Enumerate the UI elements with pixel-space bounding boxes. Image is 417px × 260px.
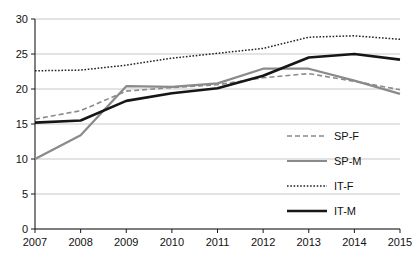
legend-label-sp-f: SP-F — [334, 130, 359, 142]
x-axis-tick-label: 2007 — [23, 236, 47, 248]
x-axis-tick-label: 2008 — [68, 236, 92, 248]
x-axis-tick-label: 2013 — [297, 236, 321, 248]
legend-label-it-f: IT-F — [334, 180, 354, 192]
x-axis-tick-label: 2014 — [342, 236, 366, 248]
chart-canvas: 051015202530 200720082009201020112012201… — [0, 0, 417, 260]
y-axis: 051015202530 — [16, 13, 35, 235]
series-line-sp-f — [35, 74, 400, 120]
legend-label-sp-m: SP-M — [334, 155, 362, 167]
line-chart: 051015202530 200720082009201020112012201… — [0, 0, 417, 260]
y-axis-tick-label: 5 — [22, 188, 28, 200]
x-axis-tick-label: 2015 — [388, 236, 412, 248]
series-line-sp-m — [35, 69, 400, 159]
y-axis-tick-label: 20 — [16, 83, 28, 95]
y-axis-tick-label: 25 — [16, 48, 28, 60]
legend-label-it-m: IT-M — [334, 205, 356, 217]
series-line-it-f — [35, 36, 400, 71]
x-axis-tick-label: 2009 — [114, 236, 138, 248]
series-line-it-m — [35, 54, 400, 123]
y-axis-tick-label: 10 — [16, 153, 28, 165]
x-axis-tick-label: 2010 — [160, 236, 184, 248]
chart-legend: SP-FSP-MIT-FIT-M — [287, 130, 362, 217]
x-axis-tick-label: 2012 — [251, 236, 275, 248]
x-axis: 200720082009201020112012201320142015 — [23, 229, 412, 248]
y-axis-tick-label: 15 — [16, 118, 28, 130]
y-axis-tick-label: 0 — [22, 223, 28, 235]
x-axis-tick-label: 2011 — [206, 236, 230, 248]
y-axis-tick-label: 30 — [16, 13, 28, 25]
